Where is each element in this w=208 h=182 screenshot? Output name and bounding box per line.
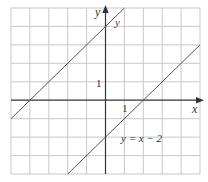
graph: y x 1 1 y y = x − 2 xyxy=(0,0,208,182)
y-axis-arrow-icon xyxy=(102,5,108,13)
y-axis-label: y xyxy=(94,5,101,19)
x-tick-label: 1 xyxy=(122,102,128,114)
upper-line-label: y xyxy=(114,16,120,28)
lower-line-label: y = x − 2 xyxy=(120,132,163,144)
x-axis-label: x xyxy=(191,102,198,116)
line-y-equals-x-minus-2 xyxy=(68,45,200,174)
y-tick-label: 1 xyxy=(96,77,102,89)
